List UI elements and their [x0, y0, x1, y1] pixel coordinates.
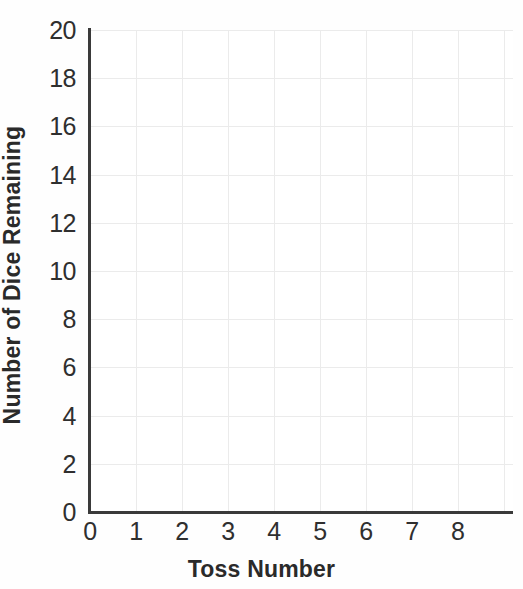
grid-line-horizontal: [90, 271, 513, 272]
grid-line-horizontal: [90, 175, 513, 176]
y-axis-tick-label: 18: [30, 66, 76, 91]
chart-figure: 02468101214161820 012345678 Number of Di…: [0, 0, 523, 589]
x-axis-tick-label: 6: [346, 519, 386, 544]
y-axis-tick-label: 10: [30, 259, 76, 284]
y-axis-tick-label: 4: [30, 403, 76, 428]
grid-line-horizontal: [90, 319, 513, 320]
y-axis-tick-label: 6: [30, 355, 76, 380]
y-axis-tick-label: 20: [30, 18, 76, 43]
grid-line-horizontal: [90, 78, 513, 79]
x-axis-tick-label: 2: [162, 519, 202, 544]
x-axis-tick-label: 5: [300, 519, 340, 544]
x-axis-line: [88, 511, 513, 514]
y-axis-line: [88, 28, 91, 514]
y-axis-tick-label: 16: [30, 114, 76, 139]
grid-line-horizontal: [90, 126, 513, 127]
y-axis-tick-label: 8: [30, 307, 76, 332]
y-axis-title-container: Number of Dice Remaining: [0, 25, 29, 525]
x-axis-tick-label: 1: [116, 519, 156, 544]
y-axis-tick-label: 12: [30, 210, 76, 235]
x-axis-tick-label: 4: [254, 519, 294, 544]
y-axis-tick-label: 14: [30, 162, 76, 187]
grid-line-horizontal: [90, 416, 513, 417]
x-axis-tick-label: 7: [392, 519, 432, 544]
y-axis-tick-labels: 02468101214161820: [30, 0, 76, 589]
grid-line-horizontal: [90, 367, 513, 368]
y-axis-tick-label: 2: [30, 451, 76, 476]
grid-line-horizontal: [90, 464, 513, 465]
y-axis-title: Number of Dice Remaining: [0, 126, 25, 425]
x-axis-title: Toss Number: [0, 556, 523, 583]
x-axis-tick-label: 0: [70, 519, 110, 544]
grid-line-horizontal: [90, 30, 513, 31]
x-axis-tick-label: 8: [438, 519, 478, 544]
grid-line-horizontal: [90, 223, 513, 224]
x-axis-tick-labels: 012345678: [0, 519, 523, 551]
x-axis-tick-label: 3: [208, 519, 248, 544]
plot-area: [90, 30, 513, 512]
